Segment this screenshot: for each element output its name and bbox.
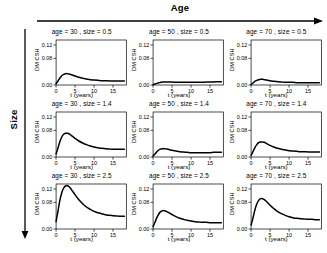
csh-curve xyxy=(56,133,124,154)
csh-curve xyxy=(251,79,319,84)
x-tick-label: 5 xyxy=(268,160,271,166)
x-tick-label: 10 xyxy=(91,160,97,166)
y-tick-label: 0.08 xyxy=(236,127,247,133)
panel-plot: 0.000.080.12051015 xyxy=(228,36,325,98)
x-tick-label: 10 xyxy=(188,88,194,94)
x-tick-label: 15 xyxy=(207,88,213,94)
x-tick-label: 0 xyxy=(55,160,58,166)
y-tick-label: 0.08 xyxy=(236,55,247,61)
x-tick-label: 15 xyxy=(207,232,213,238)
plot-frame xyxy=(153,112,223,157)
plot-frame xyxy=(56,184,126,229)
panel-plot: 0.000.080.12051015 xyxy=(228,180,325,242)
csh-curve xyxy=(251,198,319,225)
x-tick-label: 10 xyxy=(286,160,292,166)
y-tick-label: 0.08 xyxy=(139,55,150,61)
y-tick-label: 0.12 xyxy=(42,42,53,48)
y-tick-label: 0.00 xyxy=(139,226,150,232)
panel-strip-label: age = 50 , size = 0.5 xyxy=(130,28,227,36)
x-tick-label: 5 xyxy=(171,232,174,238)
y-tick-label: 0.00 xyxy=(42,226,53,232)
y-tick-label: 0.12 xyxy=(236,114,247,120)
panel-strip-label: age = 30 , size = 2.5 xyxy=(33,172,130,180)
trellis-figure: Age Size age = 30 , size = 0.5DM CSHt (y… xyxy=(0,0,327,253)
y-tick-label: 0.00 xyxy=(42,154,53,160)
y-tick-label: 0.12 xyxy=(139,186,150,192)
panel-plot: 0.000.080.12051015 xyxy=(33,180,130,242)
y-tick-label: 0.00 xyxy=(139,154,150,160)
x-tick-label: 0 xyxy=(152,160,155,166)
y-tick-label: 0.08 xyxy=(42,199,53,205)
y-tick-label: 0.12 xyxy=(236,42,247,48)
x-tick-label: 15 xyxy=(110,160,116,166)
x-tick-label: 10 xyxy=(286,88,292,94)
plot-frame xyxy=(251,184,321,229)
x-tick-label: 15 xyxy=(110,232,116,238)
panel-strip-label: age = 70 , size = 2.5 xyxy=(228,172,325,180)
x-tick-label: 0 xyxy=(55,232,58,238)
y-tick-label: 0.12 xyxy=(139,42,150,48)
plot-frame xyxy=(251,40,321,85)
panel: age = 30 , size = 2.5DM CSHt (years)0.00… xyxy=(33,171,130,243)
x-tick-label: 10 xyxy=(188,232,194,238)
size-axis-annotation: Size xyxy=(2,28,32,240)
x-tick-label: 0 xyxy=(249,88,252,94)
x-tick-label: 10 xyxy=(286,232,292,238)
csh-curve xyxy=(153,211,221,227)
x-tick-label: 0 xyxy=(249,232,252,238)
panel: age = 50 , size = 2.5DM CSHt (years)0.00… xyxy=(130,171,227,243)
panel-strip-label: age = 70 , size = 1.4 xyxy=(228,100,325,108)
x-tick-label: 10 xyxy=(91,232,97,238)
x-tick-label: 10 xyxy=(91,88,97,94)
y-tick-label: 0.12 xyxy=(42,186,53,192)
x-tick-label: 15 xyxy=(305,232,311,238)
panel-strip-label: age = 50 , size = 1.4 xyxy=(130,100,227,108)
panel-plot: 0.000.080.12051015 xyxy=(33,36,130,98)
x-tick-label: 5 xyxy=(171,160,174,166)
panel-plot: 0.000.080.12051015 xyxy=(130,180,227,242)
panel-strip-label: age = 30 , size = 0.5 xyxy=(33,28,130,36)
x-tick-label: 0 xyxy=(55,88,58,94)
csh-curve xyxy=(153,149,221,156)
panel-plot: 0.000.080.12051015 xyxy=(130,36,227,98)
age-annotation-label: Age xyxy=(36,2,324,13)
x-tick-label: 5 xyxy=(171,88,174,94)
panel: age = 30 , size = 1.4DM CSHt (years)0.00… xyxy=(33,99,130,171)
plot-frame xyxy=(56,40,126,85)
panel: age = 30 , size = 0.5DM CSHt (years)0.00… xyxy=(33,27,130,99)
arrow-right-icon xyxy=(36,17,324,25)
y-tick-label: 0.12 xyxy=(236,186,247,192)
panel-grid: age = 30 , size = 0.5DM CSHt (years)0.00… xyxy=(33,27,325,243)
x-tick-label: 15 xyxy=(207,160,213,166)
csh-curve xyxy=(56,74,124,84)
x-tick-label: 15 xyxy=(305,88,311,94)
panel-strip-label: age = 50 , size = 2.5 xyxy=(130,172,227,180)
panel: age = 50 , size = 0.5DM CSHt (years)0.00… xyxy=(130,27,227,99)
y-tick-label: 0.08 xyxy=(236,199,247,205)
y-tick-label: 0.00 xyxy=(42,82,53,88)
x-tick-label: 0 xyxy=(249,160,252,166)
panel-strip-label: age = 70 , size = 0.5 xyxy=(228,28,325,36)
y-tick-label: 0.00 xyxy=(236,82,247,88)
csh-curve xyxy=(56,186,124,222)
y-tick-label: 0.08 xyxy=(139,127,150,133)
y-tick-label: 0.00 xyxy=(236,226,247,232)
x-tick-label: 5 xyxy=(74,160,77,166)
panel: age = 70 , size = 1.4DM CSHt (years)0.00… xyxy=(228,99,325,171)
x-tick-label: 15 xyxy=(110,88,116,94)
panel-plot: 0.000.080.12051015 xyxy=(130,108,227,170)
x-tick-label: 0 xyxy=(152,88,155,94)
plot-frame xyxy=(153,40,223,85)
y-tick-label: 0.12 xyxy=(42,114,53,120)
panel: age = 50 , size = 1.4DM CSHt (years)0.00… xyxy=(130,99,227,171)
panel-strip-label: age = 30 , size = 1.4 xyxy=(33,100,130,108)
panel: age = 70 , size = 0.5DM CSHt (years)0.00… xyxy=(228,27,325,99)
csh-curve xyxy=(251,142,319,155)
y-tick-label: 0.08 xyxy=(42,55,53,61)
plot-frame xyxy=(56,112,126,157)
x-tick-label: 5 xyxy=(268,88,271,94)
age-axis-annotation: Age xyxy=(36,2,324,26)
x-tick-label: 15 xyxy=(305,160,311,166)
arrow-down-icon xyxy=(21,28,29,240)
x-tick-label: 10 xyxy=(188,160,194,166)
